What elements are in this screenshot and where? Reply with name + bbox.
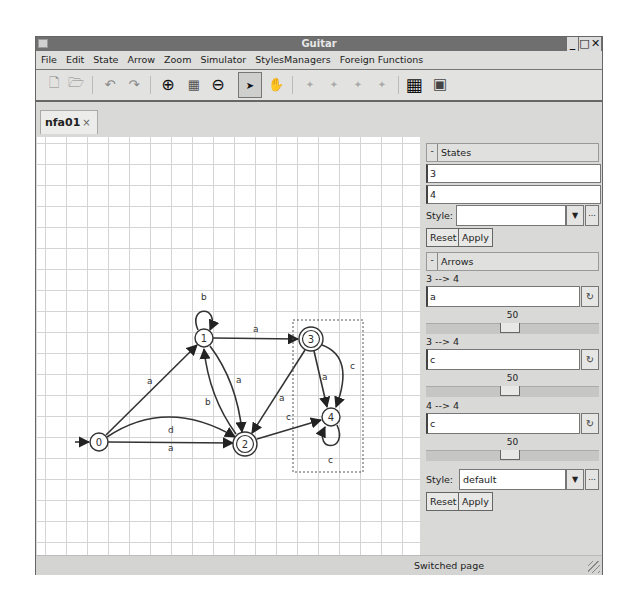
menu-stylesmanagers[interactable]: StylesManagers [250, 51, 334, 65]
label-1-2: a [236, 375, 242, 385]
pan-hand-icon[interactable]: ✋ [266, 74, 286, 94]
transition-2-4-c[interactable] [257, 420, 321, 439]
tab-nfa01[interactable]: nfa01× [40, 110, 98, 134]
transition-1-1-b[interactable] [196, 311, 212, 330]
select-pointer-icon[interactable]: ➤ [238, 72, 262, 98]
refresh-icon[interactable]: ↻ [581, 413, 599, 434]
transition-4-4-c[interactable] [323, 425, 340, 446]
label-1-1: b [201, 292, 207, 302]
menu-arrow[interactable]: Arrow [122, 51, 159, 65]
tab-label: nfa01 [45, 116, 80, 129]
menu-bar: FileEditStateArrowZoomSimulatorStylesMan… [36, 51, 602, 70]
menu-state[interactable]: State [88, 51, 122, 65]
toolbar-separator [92, 76, 93, 94]
state-3[interactable]: 3 [299, 327, 323, 351]
collapse-states-toggle[interactable]: - [427, 144, 438, 161]
state-4[interactable]: 4 [322, 408, 340, 426]
state-name-field[interactable]: 3 [426, 164, 601, 183]
menu-simulator[interactable]: Simulator [195, 51, 250, 65]
state-0[interactable]: 0 [90, 433, 108, 451]
label-4-4: c [328, 455, 333, 465]
state-style-dropdown-icon[interactable]: ▼ [566, 205, 584, 226]
states-section-header[interactable]: - States [426, 143, 599, 162]
redo-icon[interactable]: ↷ [124, 74, 144, 94]
state-style-more-button[interactable]: ... [585, 205, 599, 226]
zoom-in-icon[interactable]: ⊕ [158, 74, 178, 94]
arrow-title: 4 --> 4 [426, 400, 459, 411]
transition-1-3-a[interactable] [213, 338, 298, 339]
add-arrow-icon[interactable]: ✦ [324, 74, 344, 94]
toolbar-separator [292, 76, 293, 94]
new-file-icon[interactable]: 🗋 [44, 74, 64, 94]
refresh-icon[interactable]: ↻ [581, 349, 599, 370]
transition-0-1-a[interactable] [106, 345, 197, 435]
arrow-title: 3 --> 4 [426, 336, 459, 347]
tab-bar: nfa01× [36, 102, 602, 136]
state-2[interactable]: 2 [233, 432, 257, 456]
close-button[interactable]: ✕ [590, 37, 601, 51]
label-1-3: a [253, 324, 259, 334]
state-name-field[interactable]: 4 [426, 185, 601, 204]
title-bar[interactable]: Guitar _ □ ✕ [36, 37, 602, 51]
properties-panel: - States 3 4 Style: ▼ ... Reset Apply - … [421, 137, 602, 555]
svg-text:4: 4 [328, 412, 334, 423]
arrow-style-combo[interactable]: default [459, 469, 566, 490]
export-image-icon[interactable]: ▣ [430, 74, 450, 94]
menu-foreign-functions[interactable]: Foreign Functions [335, 51, 428, 65]
arrow-label-field[interactable]: c [426, 349, 580, 370]
toolbar: 🗋 🗁 ↶ ↷ ⊕ ▦ ⊖ ➤ ✋ ✦ ✦ ✦ ✦ ▦ ▣ [36, 70, 602, 102]
status-message: Switched page [414, 560, 484, 571]
add-state-icon[interactable]: ✦ [300, 74, 320, 94]
arrow-style-dropdown-icon[interactable]: ▼ [566, 469, 584, 490]
guitar-window: Guitar _ □ ✕ FileEditStateArrowZoomSimul… [35, 36, 603, 575]
states: 0 1 2 3 4 [90, 327, 340, 456]
menu-zoom[interactable]: Zoom [159, 51, 195, 65]
slider-handle[interactable] [500, 386, 520, 396]
arrow-curvature-slider[interactable] [426, 450, 599, 461]
collapse-arrows-toggle[interactable]: - [427, 253, 438, 270]
final-state-icon[interactable]: ✦ [372, 74, 392, 94]
zoom-out-icon[interactable]: ⊖ [208, 74, 228, 94]
arrow-curvature-slider[interactable] [426, 386, 599, 397]
state-style-combo[interactable] [456, 205, 566, 226]
minimize-button[interactable]: _ [567, 37, 578, 51]
close-tab-icon[interactable]: × [82, 117, 90, 128]
arrows-section-header[interactable]: - Arrows [426, 252, 599, 271]
arrows-apply-button[interactable]: Apply [458, 492, 493, 511]
arrow-curvature-value: 50 [426, 437, 599, 447]
arrow-title: 3 --> 4 [426, 273, 459, 284]
slider-handle[interactable] [500, 323, 520, 333]
menu-file[interactable]: File [36, 51, 61, 65]
maximize-button[interactable]: □ [579, 37, 590, 51]
resize-grip-icon[interactable] [588, 561, 600, 573]
transition-3-2-a[interactable] [252, 350, 305, 433]
svg-text:1: 1 [201, 333, 207, 344]
arrow-style-label: Style: [426, 474, 453, 485]
initial-state-icon[interactable]: ✦ [348, 74, 368, 94]
state-1[interactable]: 1 [195, 329, 213, 347]
states-apply-button[interactable]: Apply [458, 228, 493, 247]
arrow-curvature-slider[interactable] [426, 323, 599, 334]
menu-edit[interactable]: Edit [61, 51, 88, 65]
automaton-graph: a d a b a a b c a a c c 0 [37, 137, 420, 555]
svg-text:3: 3 [308, 334, 314, 345]
label-3-2: a [279, 393, 285, 403]
states-header-label: States [441, 147, 471, 158]
zoom-fit-icon[interactable]: ▦ [184, 74, 204, 94]
refresh-icon[interactable]: ↻ [581, 286, 599, 307]
arrows-reset-button[interactable]: Reset [426, 492, 461, 511]
open-file-icon[interactable]: 🗁 [66, 74, 86, 94]
arrow-label-field[interactable]: c [426, 413, 580, 434]
slider-handle[interactable] [500, 450, 520, 460]
label-0-1: a [147, 376, 153, 386]
automaton-canvas[interactable]: a d a b a a b c a a c c 0 [37, 137, 420, 555]
svg-text:2: 2 [242, 439, 248, 450]
undo-icon[interactable]: ↶ [100, 74, 120, 94]
grid-icon[interactable]: ▦ [404, 74, 424, 94]
arrow-label-field[interactable]: a [426, 286, 580, 307]
arrow-style-more-button[interactable]: ... [585, 469, 599, 490]
label-2-1: b [205, 397, 211, 407]
states-reset-button[interactable]: Reset [426, 228, 461, 247]
window-title: Guitar [36, 38, 602, 49]
label-3-4-a: a [322, 372, 328, 382]
